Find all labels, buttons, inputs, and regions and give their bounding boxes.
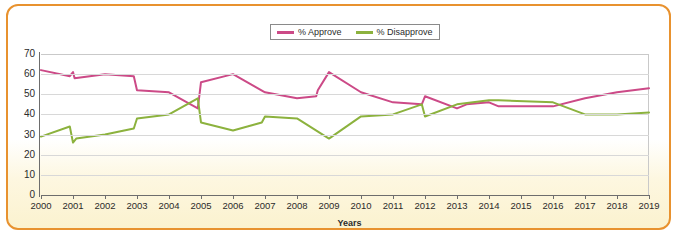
gridline [41, 114, 649, 115]
y-tick-label: 50 [24, 89, 35, 99]
x-tick [73, 195, 74, 199]
chart-legend: % Approve % Disapprove [270, 24, 440, 40]
x-tick [489, 195, 490, 199]
x-tick [233, 195, 234, 199]
x-tick-label: 2010 [350, 201, 371, 211]
x-tick [297, 195, 298, 199]
x-tick [585, 195, 586, 199]
x-tick-label: 2016 [542, 201, 563, 211]
gridline [41, 155, 649, 156]
y-tick-label: 0 [29, 190, 35, 200]
gridline [41, 74, 649, 75]
legend-item-approve: % Approve [277, 28, 342, 37]
x-tick-label: 2014 [478, 201, 499, 211]
y-tick-label: 70 [24, 49, 35, 59]
x-tick [329, 195, 330, 199]
legend-label-disapprove: % Disapprove [377, 28, 433, 37]
series-lines [41, 54, 649, 195]
x-tick-label: 2018 [606, 201, 627, 211]
y-axis-line [39, 52, 40, 197]
series-line-disapprove [41, 98, 649, 142]
x-tick-label: 2015 [510, 201, 531, 211]
x-tick [553, 195, 554, 199]
y-tick-label: 40 [24, 109, 35, 119]
x-tick-label: 2009 [318, 201, 339, 211]
chart-panel: % Approve % Disapprove 010203040506070 Y… [6, 4, 671, 230]
x-tick-label: 2005 [190, 201, 211, 211]
x-tick [617, 195, 618, 199]
x-tick [521, 195, 522, 199]
x-tick-label: 2004 [158, 201, 179, 211]
x-tick-label: 2011 [383, 201, 403, 211]
x-tick [201, 195, 202, 199]
y-axis-tick-labels: 010203040506070 [8, 6, 35, 230]
gridline [41, 94, 649, 95]
plot-area [41, 54, 649, 195]
x-tick-label: 2003 [126, 201, 147, 211]
x-tick-label: 2006 [222, 201, 243, 211]
x-tick-label: 2019 [638, 201, 659, 211]
x-tick-label: 2002 [94, 201, 115, 211]
x-tick-label: 2017 [574, 201, 595, 211]
x-tick [425, 195, 426, 199]
y-tick-label: 10 [24, 170, 35, 180]
chart-figure: % Approve % Disapprove 010203040506070 Y… [0, 0, 683, 242]
gridline [41, 135, 649, 136]
legend-item-disapprove: % Disapprove [356, 28, 433, 37]
legend-swatch-disapprove [356, 31, 373, 34]
x-tick-label: 2013 [446, 201, 467, 211]
x-tick [137, 195, 138, 199]
x-tick [361, 195, 362, 199]
x-tick [649, 195, 650, 199]
x-tick [265, 195, 266, 199]
x-tick-label: 2008 [286, 201, 307, 211]
x-tick [457, 195, 458, 199]
x-tick [105, 195, 106, 199]
y-tick-label: 30 [24, 130, 35, 140]
x-axis-line [41, 195, 650, 196]
figure-caption-clipped [0, 234, 683, 242]
gridline [41, 175, 649, 176]
x-tick-label: 2012 [414, 201, 435, 211]
legend-label-approve: % Approve [298, 28, 342, 37]
x-tick-label: 2000 [30, 201, 51, 211]
x-tick [169, 195, 170, 199]
x-tick [41, 195, 42, 199]
x-tick [393, 195, 394, 199]
series-line-approve [41, 70, 649, 108]
x-tick-label: 2001 [62, 201, 83, 211]
y-tick-label: 20 [24, 150, 35, 160]
x-axis-title: Years [8, 218, 671, 228]
x-tick-label: 2007 [254, 201, 275, 211]
legend-swatch-approve [277, 31, 294, 34]
y-tick-label: 60 [24, 69, 35, 79]
